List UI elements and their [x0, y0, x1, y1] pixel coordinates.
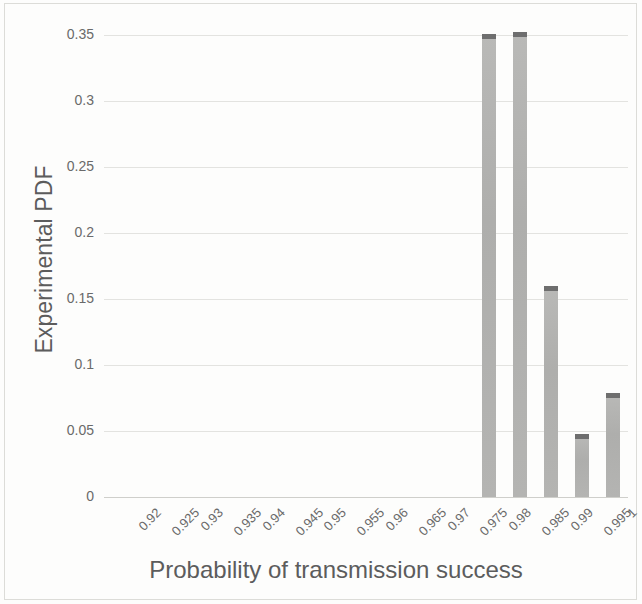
gridline [104, 167, 628, 168]
x-axis-tick-label: 0.98 [506, 505, 535, 534]
bar [606, 393, 620, 497]
bar-cap [575, 434, 589, 439]
y-axis-tick-label: 0.35 [42, 26, 94, 42]
y-axis-tick-label: 0 [42, 488, 94, 504]
gridline [104, 101, 628, 102]
plot-area [104, 35, 628, 497]
x-axis-tick-label: 0.92 [136, 505, 165, 534]
bar [544, 286, 558, 497]
chart-container: Experimental PDF 00.050.10.150.20.250.30… [0, 0, 642, 604]
x-axis-tick-label: 0.99 [567, 505, 596, 534]
y-axis-tick-label: 0.1 [42, 356, 94, 372]
x-axis-title: Probability of transmission success [86, 556, 586, 584]
bar [513, 32, 527, 497]
x-axis-tick-labels: 0.920.9250.930.9350.940.9450.950.9550.96… [104, 499, 628, 555]
bar [575, 434, 589, 497]
bar-cap [513, 32, 527, 37]
y-axis-tick-label: 0.05 [42, 422, 94, 438]
bar [482, 34, 496, 497]
gridline [104, 497, 628, 498]
x-axis-tick-label: 0.95 [321, 505, 350, 534]
x-axis-tick-label: 0.97 [444, 505, 473, 534]
gridline [104, 233, 628, 234]
bar-cap [606, 393, 620, 398]
bar-cap [544, 286, 558, 291]
bar-cap [482, 34, 496, 39]
y-axis-tick-label: 0.15 [42, 290, 94, 306]
gridline [104, 35, 628, 36]
x-axis-tick-label: 0.93 [197, 505, 226, 534]
x-axis-tick-label: 0.96 [382, 505, 411, 534]
y-axis-tick-label: 0.3 [42, 92, 94, 108]
x-axis-tick-label: 0.94 [259, 505, 288, 534]
y-axis-tick-label: 0.2 [42, 224, 94, 240]
y-axis-tick-label: 0.25 [42, 158, 94, 174]
